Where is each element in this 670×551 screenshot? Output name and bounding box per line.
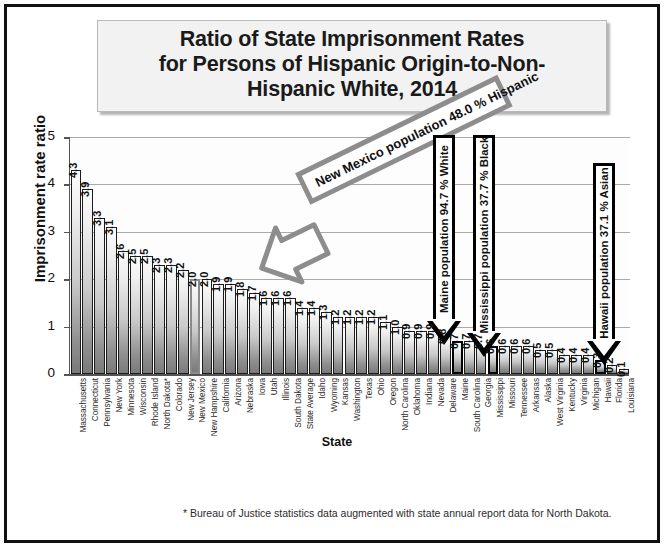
x-tick-label: South Dakota [294, 378, 303, 428]
bar-value-label: 1.7 [246, 286, 258, 301]
bar-value-label: 1.0 [389, 319, 401, 334]
bar [273, 298, 284, 374]
bar-value-label: 1.3 [317, 305, 329, 320]
bar-value-label: 1.4 [293, 300, 305, 315]
bar-value-label: 1.1 [377, 315, 389, 330]
bar-value-label: 2.5 [138, 248, 150, 263]
bar-value-label: 1.2 [365, 310, 377, 325]
x-tick-label: Connecticut [91, 378, 100, 421]
gridline [70, 137, 630, 138]
bar [297, 308, 308, 374]
x-tick-label: Mississippi [496, 378, 505, 418]
bar-value-label: 0.7 [448, 334, 460, 349]
x-tick-label: Oregon [389, 378, 398, 405]
y-tick-label: 0 [21, 365, 55, 380]
bar-value-label: 0.6 [484, 338, 496, 353]
x-tick-label: Virginia [580, 378, 589, 405]
x-tick-label: Hawaii [604, 378, 613, 403]
x-tick-label: North Carolina [401, 378, 410, 431]
x-tick-label: Illinois [282, 378, 291, 401]
bar [190, 279, 201, 374]
x-tick-label: Massachusetts [79, 378, 88, 433]
x-tick-label: Nevada [437, 378, 446, 406]
chart-frame: Ratio of State Imprisonment Rates for Pe… [4, 4, 660, 543]
x-axis-line [69, 374, 629, 376]
bar-value-label: 0.9 [400, 324, 412, 339]
bar-value-label: 0.6 [496, 338, 508, 353]
bar-value-label: 1.9 [222, 277, 234, 292]
bar [166, 265, 177, 374]
callout-hawaii-label: Hawaii population 37.1 % Asian [593, 163, 615, 343]
x-tick-label: Arkansas [532, 378, 541, 412]
x-tick-label: Maine [461, 378, 470, 400]
x-tick-label: Idaho [318, 378, 327, 399]
bar-value-label: 1.9 [210, 277, 222, 292]
x-axis-label: State [257, 435, 417, 449]
bar-value-label: 2.0 [186, 272, 198, 287]
y-tick-label: 4 [21, 175, 55, 190]
bar [333, 317, 344, 374]
x-tick-label: Delaware [449, 378, 458, 413]
bar [118, 251, 129, 374]
x-tick-label: Michigan [592, 378, 601, 411]
bar-value-label: 0.4 [579, 348, 591, 363]
y-tick-label: 5 [21, 128, 55, 143]
callout-mississippi-label: Mississippi population 37.7 % Black [473, 135, 495, 335]
x-tick-label: Nebraska [246, 378, 255, 413]
bar-value-label: 0.9 [412, 324, 424, 339]
bar-value-label: 1.2 [329, 310, 341, 325]
x-tick-label: Arizona [234, 378, 243, 406]
bar [71, 170, 82, 374]
bar [237, 289, 248, 374]
bar-value-label: 1.2 [341, 310, 353, 325]
bar-value-label: 0.6 [508, 338, 520, 353]
x-tick-label: Rhode Island [151, 378, 160, 426]
x-tick-label: State Average [306, 378, 315, 429]
x-tick-label: Washington [353, 378, 362, 421]
x-tick-label: California [222, 378, 231, 413]
bar-value-label: 0.5 [531, 343, 543, 358]
bar-value-label: 0.3 [591, 352, 603, 367]
bar-value-label: 1.6 [281, 291, 293, 306]
x-tick-label: New Mexico [198, 378, 207, 423]
callout-mississippi-arrow: Mississippi population 37.7 % Black [467, 135, 501, 335]
x-tick-label: Wyoming [330, 378, 339, 412]
bar-value-label: 0.2 [603, 357, 615, 372]
x-tick-label: Oklahoma [413, 378, 422, 415]
x-tick-label: Iowa [258, 378, 267, 395]
bar-value-label: 0.1 [615, 362, 627, 377]
x-tick-label: North Dakota* [163, 378, 172, 429]
x-tick-label: Texas [365, 378, 374, 399]
bar-value-label: 0.6 [520, 338, 532, 353]
x-tick-label: Pennsylvania [103, 378, 112, 427]
x-tick-label: New Jersey [187, 378, 196, 421]
bar-value-label: 0.4 [555, 348, 567, 363]
x-tick-label: South Carolina [473, 378, 482, 432]
x-tick-label: Missouri [508, 378, 517, 408]
bar [261, 298, 272, 374]
x-tick-label: Ohio [377, 378, 386, 395]
footnote: * Bureau of Justice statistics data augm… [183, 507, 653, 519]
bar-value-label: 4.3 [67, 163, 79, 178]
x-tick-label: Louisiana [627, 378, 636, 413]
x-tick-label: West Virginia [556, 378, 565, 426]
y-tick-label: 3 [21, 223, 55, 238]
bar [213, 284, 224, 374]
x-tick-label: Tennessee [520, 378, 529, 418]
bar-value-label: 0.5 [543, 343, 555, 358]
x-tick-label: Indiana [425, 378, 434, 405]
y-tick-label: 1 [21, 318, 55, 333]
bar [225, 284, 236, 374]
bar [202, 279, 213, 374]
bar [94, 218, 105, 374]
y-tick-label: 2 [21, 270, 55, 285]
bar [130, 256, 141, 375]
x-tick-label: New York [115, 378, 124, 413]
plot-wrapper: Imprisonment rate ratio State 012345 Mas… [7, 7, 663, 546]
x-tick-label: Kentucky [568, 378, 577, 412]
x-tick-label: New Hampshire [210, 378, 219, 436]
bar-value-label: 2.2 [174, 262, 186, 277]
bar-value-label: 1.8 [234, 281, 246, 296]
x-tick-label: Colorado [175, 378, 184, 411]
bar-value-label: 1.6 [269, 291, 281, 306]
